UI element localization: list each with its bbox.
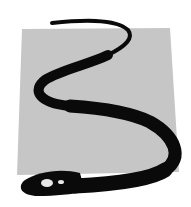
snake-illustration xyxy=(0,0,191,207)
snake-nostril xyxy=(58,180,64,184)
snake-graphic xyxy=(0,0,191,207)
snake-eye xyxy=(41,179,53,187)
